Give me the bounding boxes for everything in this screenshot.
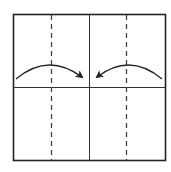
fold-diagram <box>0 0 171 172</box>
